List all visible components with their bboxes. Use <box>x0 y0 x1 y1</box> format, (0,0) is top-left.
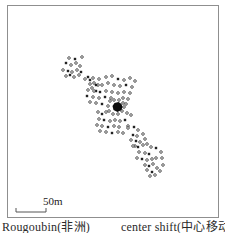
structure-marker <box>70 64 73 67</box>
structure-marker <box>101 84 104 87</box>
structure-marker <box>92 96 95 99</box>
scale-bar-label: 50m <box>43 195 63 207</box>
structure-marker <box>68 57 71 60</box>
structure-marker <box>127 127 130 130</box>
structure-marker <box>107 126 109 128</box>
scale-bar <box>16 208 46 212</box>
structure-marker <box>131 86 134 89</box>
structure-marker <box>149 175 152 178</box>
structure-marker <box>99 91 101 93</box>
structure-marker <box>117 131 120 134</box>
structure-marker <box>136 157 139 160</box>
structure-marker <box>129 92 132 95</box>
structure-marker <box>132 145 135 148</box>
structure-marker <box>98 78 101 81</box>
structure-marker <box>89 79 91 81</box>
structure-marker <box>138 151 141 154</box>
structure-marker <box>152 163 155 166</box>
structure-marker <box>105 111 108 114</box>
structure-markers-layer <box>62 56 165 178</box>
structure-marker <box>112 113 115 116</box>
structure-marker <box>146 159 149 162</box>
structure-marker <box>114 119 117 122</box>
structure-marker <box>162 164 165 167</box>
structure-marker <box>124 119 126 121</box>
structure-marker <box>87 76 89 78</box>
structure-marker <box>86 95 88 97</box>
structure-marker <box>99 130 102 133</box>
structure-marker <box>69 74 71 76</box>
structure-marker <box>150 146 153 149</box>
structure-marker <box>105 131 108 134</box>
structure-marker <box>73 76 76 79</box>
structure-marker <box>142 144 145 147</box>
structure-marker <box>110 97 113 100</box>
structure-marker <box>159 170 162 173</box>
structure-marker <box>137 129 140 132</box>
structure-marker <box>154 174 157 177</box>
structure-marker <box>101 103 103 105</box>
structure-marker <box>130 114 133 117</box>
structure-marker <box>62 69 65 72</box>
structure-marker <box>130 139 133 142</box>
structure-marker <box>71 71 74 74</box>
structure-marker <box>119 120 122 123</box>
structure-marker <box>134 80 137 83</box>
structure-marker <box>123 106 126 109</box>
structure-marker <box>109 120 112 123</box>
structure-marker <box>67 70 69 72</box>
structure-marker <box>108 110 111 113</box>
figure-root: 50m Rougoubin(非洲) center shift(中心移动) <box>0 0 225 233</box>
structure-marker <box>126 112 129 115</box>
structure-marker <box>137 146 139 148</box>
structure-marker <box>107 82 110 85</box>
structure-marker <box>117 92 120 95</box>
structure-marker <box>146 169 149 172</box>
caption-center-shift: center shift(中心移动) <box>121 220 225 233</box>
structure-marker <box>117 78 119 80</box>
structure-marker <box>98 97 101 100</box>
structure-marker <box>91 87 94 90</box>
structure-marker <box>148 165 150 167</box>
structure-marker <box>118 126 121 129</box>
structure-marker <box>127 98 130 101</box>
structure-marker <box>89 83 92 86</box>
structure-marker <box>105 90 108 93</box>
structure-marker <box>95 102 98 105</box>
structure-marker <box>75 62 78 65</box>
structure-marker <box>92 77 95 80</box>
structure-marker <box>107 105 110 108</box>
structure-marker <box>98 118 101 121</box>
structure-marker <box>132 134 134 136</box>
structure-marker <box>122 97 125 100</box>
structure-marker <box>80 71 82 73</box>
structure-marker <box>129 77 132 80</box>
structure-marker <box>148 153 150 155</box>
structure-marker <box>135 140 137 142</box>
structure-marker <box>122 102 125 105</box>
structure-marker <box>96 124 99 127</box>
structure-marker <box>119 85 122 88</box>
structure-marker <box>74 58 76 60</box>
site-map <box>0 0 225 233</box>
structure-marker <box>133 126 135 128</box>
structure-marker <box>125 103 128 106</box>
structure-marker <box>125 84 127 86</box>
structure-marker <box>97 111 100 114</box>
structure-marker <box>113 99 116 102</box>
structure-marker <box>144 164 147 167</box>
structure-marker <box>117 113 120 116</box>
structure-marker <box>103 119 105 121</box>
structure-marker <box>122 132 125 135</box>
structure-marker <box>156 167 159 170</box>
structure-marker <box>109 100 112 103</box>
structure-marker <box>146 143 149 146</box>
structure-marker <box>123 91 126 94</box>
structure-marker <box>136 135 139 138</box>
structure-marker <box>95 84 97 86</box>
caption-site-name: Rougoubin(非洲) <box>2 220 90 233</box>
structure-marker <box>118 99 121 102</box>
structure-marker <box>101 113 103 115</box>
structure-marker <box>101 125 104 128</box>
structure-marker <box>123 79 126 82</box>
